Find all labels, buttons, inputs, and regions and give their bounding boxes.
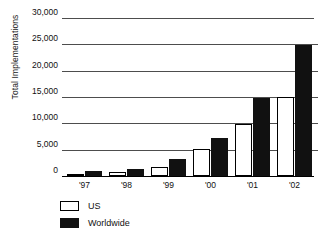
y-axis-tick-right (314, 97, 318, 98)
legend-label-worldwide: Worldwide (88, 218, 130, 228)
x-axis-tick-label: '02 (271, 180, 319, 190)
y-axis-title: Total Implementations (10, 0, 20, 117)
bar-group (67, 18, 103, 176)
y-axis-tick-label: 0 (53, 165, 58, 175)
y-axis-tick-label: 25,000 (32, 33, 58, 43)
bar-group (109, 18, 145, 176)
legend-item-us: US (60, 197, 130, 214)
y-axis-tick-label: 5,000 (37, 139, 58, 149)
y-axis-tick-right (314, 123, 318, 124)
x-axis-tick-label: '99 (145, 180, 193, 190)
plot-area: 05,00010,00015,00020,00025,00030,000 (62, 18, 314, 176)
legend-swatch-us-icon (60, 201, 79, 211)
bar-us (277, 97, 295, 176)
legend-swatch-worldwide-icon (60, 218, 79, 228)
bar-group (151, 18, 187, 176)
bar-worldwide (169, 159, 187, 176)
bar-chart: Total Implementations 05,00010,00015,000… (0, 0, 334, 245)
bar-us (109, 172, 127, 176)
y-axis-tick-right (314, 150, 318, 151)
bar-us (235, 124, 253, 176)
y-axis-tick-label: 30,000 (32, 7, 58, 17)
bar-worldwide (85, 171, 103, 176)
legend-label-us: US (88, 201, 101, 211)
x-axis-tick-label: '98 (103, 180, 151, 190)
bar-worldwide (295, 45, 313, 176)
bar-us (193, 149, 211, 176)
y-axis-tick-label: 20,000 (32, 60, 58, 70)
x-axis-tick-label: '97 (61, 180, 109, 190)
y-axis-tick-right (314, 71, 318, 72)
x-axis-tick-label: '01 (229, 180, 277, 190)
y-axis-tick-right (314, 44, 318, 45)
bar-group (277, 18, 313, 176)
bar-group (235, 18, 271, 176)
y-axis-tick-label: 15,000 (32, 86, 58, 96)
bar-group (193, 18, 229, 176)
bar-worldwide (211, 138, 229, 176)
x-axis-tick-label: '00 (187, 180, 235, 190)
bar-us (67, 174, 85, 176)
axis-baseline (62, 176, 314, 177)
bar-us (151, 167, 169, 177)
bar-worldwide (127, 169, 145, 176)
chart-legend: US Worldwide (60, 197, 130, 231)
y-axis-tick-label: 10,000 (32, 112, 58, 122)
legend-item-worldwide: Worldwide (60, 214, 130, 231)
bar-worldwide (253, 98, 271, 176)
